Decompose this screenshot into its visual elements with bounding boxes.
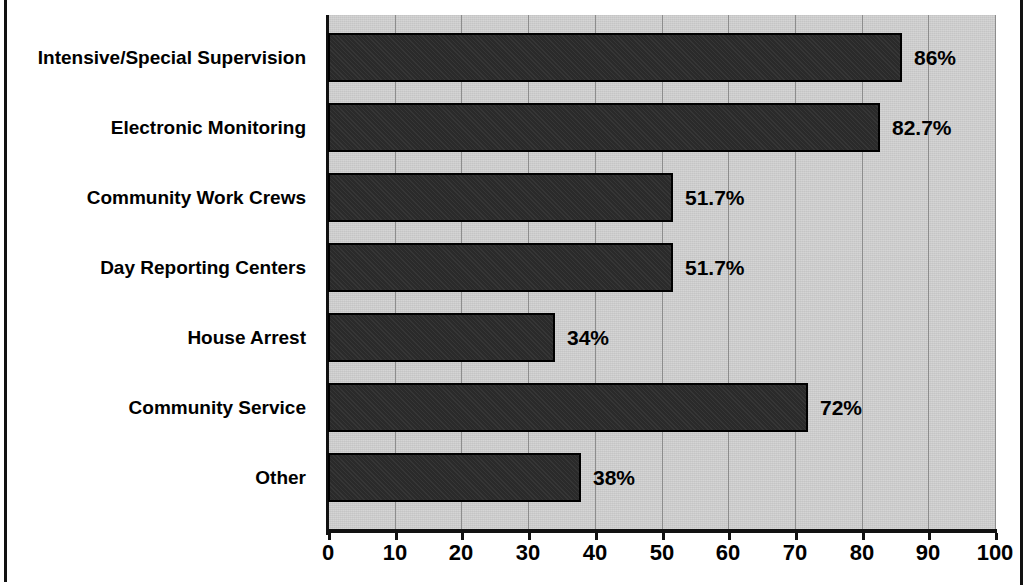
category-label: Day Reporting Centers [0, 257, 316, 279]
x-axis-tick-label: 20 [431, 541, 491, 565]
x-axis-tick [728, 533, 731, 540]
bar-value-label: 51.7% [685, 257, 745, 279]
x-axis-tick [862, 533, 865, 540]
bar [328, 173, 673, 222]
horizontal-bar-chart: 0102030405060708090100 86%82.7%51.7%51.7… [0, 0, 1035, 587]
x-axis-tick-label: 60 [698, 541, 758, 565]
x-axis-tick-label: 80 [832, 541, 892, 565]
x-axis-tick [995, 533, 998, 540]
gridline [928, 15, 929, 532]
category-label: House Arrest [0, 327, 316, 349]
bar [328, 383, 808, 432]
category-label: Electronic Monitoring [0, 117, 316, 139]
bar-value-label: 38% [593, 467, 635, 489]
x-axis-tick-label: 100 [965, 541, 1025, 565]
bar [328, 243, 673, 292]
x-axis-tick-label: 0 [298, 541, 358, 565]
x-axis-tick-label: 90 [898, 541, 958, 565]
x-axis-tick-label: 50 [632, 541, 692, 565]
x-axis-tick-label: 10 [365, 541, 425, 565]
x-axis-tick [928, 533, 931, 540]
x-axis-tick [662, 533, 665, 540]
x-axis-tick [328, 533, 331, 540]
category-label: Community Service [0, 397, 316, 419]
category-label: Community Work Crews [0, 187, 316, 209]
x-axis-tick-label: 30 [498, 541, 558, 565]
x-axis-tick [795, 533, 798, 540]
x-axis-tick [528, 533, 531, 540]
x-axis-tick [595, 533, 598, 540]
x-axis-tick-label: 70 [765, 541, 825, 565]
category-label: Intensive/Special Supervision [0, 47, 316, 69]
bar-value-label: 82.7% [892, 117, 952, 139]
x-axis-tick [461, 533, 464, 540]
bar-value-label: 86% [914, 47, 956, 69]
bar [328, 103, 880, 152]
bar-value-label: 72% [820, 397, 862, 419]
gridline [862, 15, 863, 532]
x-axis-tick-label: 40 [565, 541, 625, 565]
category-label: Other [0, 467, 316, 489]
gridline [795, 15, 796, 532]
bar-value-label: 34% [567, 327, 609, 349]
x-axis-tick [395, 533, 398, 540]
gridline [995, 15, 996, 532]
bar [328, 313, 555, 362]
bar-value-label: 51.7% [685, 187, 745, 209]
bar [328, 453, 581, 502]
bar [328, 33, 902, 82]
